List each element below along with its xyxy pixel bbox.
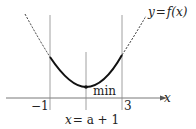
x-axis-label: x (164, 91, 171, 105)
parabola-diagram: y=f(x) x −1 3 min x= a + 1 (0, 0, 196, 129)
parabola-dashed-left (25, 14, 50, 57)
axis-of-symmetry-label: x= a + 1 (65, 113, 119, 127)
parabola-dashed-right (122, 16, 146, 55)
vertex-point (84, 85, 88, 89)
curve-label: y=f(x) (147, 5, 188, 19)
tick-label-left: −1 (31, 99, 49, 113)
tick-label-right: 3 (124, 99, 132, 113)
vertex-label-min: min (93, 84, 116, 98)
